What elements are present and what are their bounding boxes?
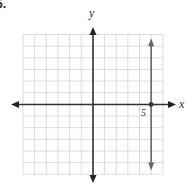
y-axis-down-arrow-icon — [90, 175, 97, 183]
graph-up-arrow-icon — [148, 38, 154, 46]
tick-label-5: 5 — [141, 107, 146, 118]
graph-down-arrow-icon — [148, 162, 154, 170]
y-axis-up-arrow-icon — [90, 27, 97, 35]
x-axis-left-arrow-icon — [11, 101, 19, 108]
x-axis-label: x — [178, 97, 185, 111]
x-axis-right-arrow-icon — [168, 101, 176, 108]
coordinate-plane: x y 5 — [0, 0, 195, 193]
y-axis-label: y — [88, 6, 95, 20]
x-intercept-point — [149, 102, 154, 107]
